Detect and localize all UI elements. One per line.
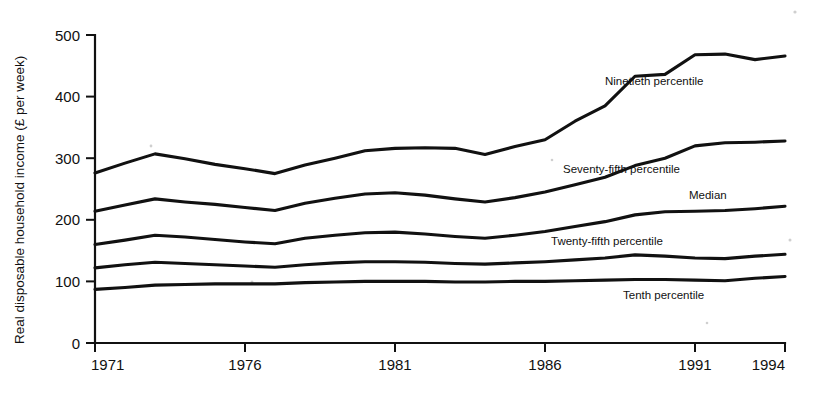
- series-label: Seventy-fifth percentile: [563, 163, 680, 175]
- series-line: [95, 254, 785, 268]
- series-label: Tenth percentile: [623, 289, 704, 301]
- x-tick-label: 1976: [228, 356, 261, 373]
- series-line: [95, 206, 785, 244]
- data-series-lines: [95, 54, 785, 289]
- y-tick-label: 400: [55, 88, 80, 105]
- x-tick-label: 1986: [528, 356, 561, 373]
- x-tick-label: 1971: [91, 356, 124, 373]
- line-chart: Real disposable household income (£ per …: [0, 0, 813, 397]
- y-tick-label: 500: [55, 27, 80, 44]
- y-tick-label: 300: [55, 150, 80, 167]
- series-line: [95, 141, 785, 211]
- x-tick-label: 1981: [378, 356, 411, 373]
- x-tick-label: 1994: [752, 356, 785, 373]
- series-annotations: Ninetieth percentileSeventy-fifth percen…: [551, 75, 727, 301]
- y-tick-label: 100: [55, 273, 80, 290]
- y-tick-label: 0: [72, 335, 80, 352]
- chart-container: Real disposable household income (£ per …: [0, 0, 813, 397]
- series-line: [95, 276, 785, 289]
- y-axis-ticks: 0100200300400500: [55, 27, 95, 352]
- x-tick-label: 1991: [678, 356, 711, 373]
- y-tick-label: 200: [55, 211, 80, 228]
- y-axis-label: Real disposable household income (£ per …: [12, 56, 27, 344]
- y-axis-label-text: Real disposable household income (£ per …: [12, 56, 27, 344]
- series-label: Twenty-fifth percentile: [551, 235, 663, 247]
- background-specks: [150, 10, 797, 324]
- series-label: Median: [689, 189, 727, 201]
- x-axis-ticks: 197119761981198619911994: [91, 343, 785, 373]
- series-line: [95, 54, 785, 174]
- series-label: Ninetieth percentile: [605, 75, 703, 87]
